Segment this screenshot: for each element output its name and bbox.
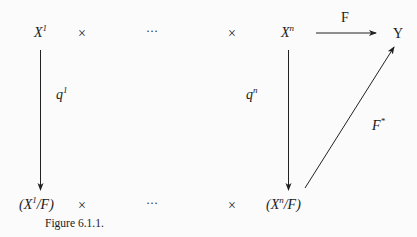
- times-symbol: ×: [78, 27, 86, 41]
- node-y: Y: [393, 27, 403, 41]
- times-symbol: ×: [228, 199, 236, 213]
- node-xn-quotient: (Xn/F): [266, 198, 301, 212]
- node-x1-quotient: (X1/F): [19, 198, 54, 212]
- ellipsis: ···: [146, 196, 158, 210]
- node-x1: X1: [34, 26, 47, 40]
- node-xn: Xn: [281, 26, 294, 40]
- figure-caption: Figure 6.1.1.: [45, 216, 104, 230]
- ellipsis: ···: [146, 24, 158, 38]
- label-fstar: F*: [372, 119, 385, 133]
- arrows-layer: [0, 0, 417, 237]
- label-f: F: [341, 11, 349, 25]
- times-symbol: ×: [228, 27, 236, 41]
- times-symbol: ×: [78, 199, 86, 213]
- label-q1: q1: [56, 88, 68, 102]
- label-qn: qn: [246, 88, 258, 102]
